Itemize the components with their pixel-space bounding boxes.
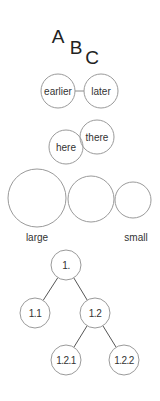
there-label: there [86,132,109,143]
small-circle [115,182,151,218]
tree-node-label: 1.2.1 [56,355,77,366]
tree-edge [43,278,58,301]
later-label: later [91,86,111,97]
tree-node-label: 1.1 [29,308,42,319]
large-circle [8,169,66,227]
letters-group: A B C [52,26,99,68]
letter-b: B [70,37,83,58]
here-label: here [56,142,76,153]
tree-edge [74,326,87,347]
large-label: large [26,232,49,243]
small-label: small [124,232,147,243]
tree-node-label: 1.2.2 [114,355,135,366]
tree-nodes: 1.1.11.21.2.11.2.2 [20,250,139,375]
earlier-label: earlier [44,86,72,97]
letter-a: A [52,26,65,47]
tree-edge [103,326,116,347]
tree-edge [74,278,87,300]
overlap-group: here there [49,120,114,164]
diagram-canvas: A B C earlier later here there large sma… [0,0,160,401]
tree-node-label: 1. [62,260,69,271]
tree-node-label: 1.2 [89,308,102,319]
letter-c: C [85,47,99,68]
sequence-group: earlier later [41,74,118,108]
medium-circle [68,176,114,222]
size-scale-group: large small [8,169,151,243]
tree-group: 1.1.11.21.2.11.2.2 [20,250,139,375]
